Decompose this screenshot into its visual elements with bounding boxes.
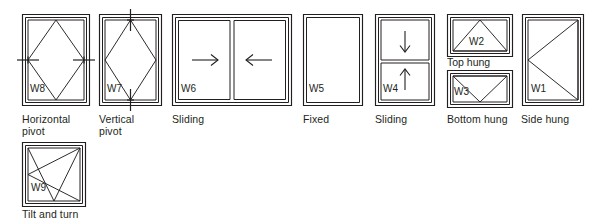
window-code-label-w3: W3 xyxy=(454,87,469,97)
caption-horizontal-pivot: Horizontal pivot xyxy=(22,114,70,137)
caption-vertical-pivot: Vertical pivot xyxy=(99,114,134,137)
caption-fixed: Fixed xyxy=(303,114,329,126)
window-code-label-w8: W8 xyxy=(30,84,45,94)
window-code-label-w9: W9 xyxy=(31,183,46,193)
window-symbol-w7-vertical-pivot xyxy=(100,9,162,111)
window-code-label-w5: W5 xyxy=(309,84,324,94)
caption-tilt-and-turn: Tilt and turn xyxy=(22,209,78,221)
window-symbol-w8-horizontal-pivot xyxy=(17,15,95,106)
window-types-diagram: .f { fill:none; stroke:#231f20; stroke-w… xyxy=(0,0,598,223)
caption-top-hung-inline: Top hung xyxy=(447,57,490,69)
window-symbol-w9-tilt-and-turn xyxy=(23,143,86,207)
caption-sliding-horizontal: Sliding xyxy=(172,114,204,126)
window-code-label-w7: W7 xyxy=(107,84,122,94)
window-code-label-w6: W6 xyxy=(181,84,196,94)
window-code-label-w4: W4 xyxy=(383,84,398,94)
caption-bottom-hung: Bottom hung xyxy=(447,114,508,126)
caption-side-hung: Side hung xyxy=(521,114,569,126)
window-code-label-w2: W2 xyxy=(469,37,484,47)
window-code-label-w1: W1 xyxy=(531,84,546,94)
caption-sliding-vertical: Sliding xyxy=(375,114,407,126)
